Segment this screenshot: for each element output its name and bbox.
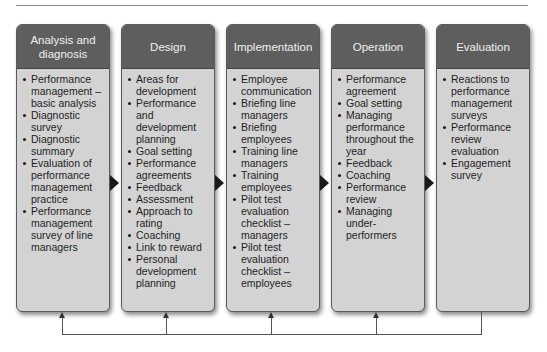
stage-title: Implementation	[227, 25, 319, 69]
list-item: Feedback	[128, 181, 211, 193]
stage-box: Analysis and diagnosisPerformance manage…	[16, 24, 110, 312]
stage-items: Performance management – basic analysisD…	[17, 69, 109, 253]
top-rule	[16, 5, 528, 6]
list-item: Briefing employees	[233, 121, 316, 145]
flow-arrow-icon	[425, 175, 434, 191]
list-item: Performance and development planning	[128, 97, 211, 145]
stage-items: Areas for developmentPerformance and dev…	[122, 69, 214, 289]
list-item: Coaching	[128, 229, 211, 241]
list-item: Link to reward	[128, 241, 211, 253]
stage-title: Operation	[332, 25, 424, 69]
list-item: Goal setting	[338, 97, 421, 109]
list-item: Diagnostic survey	[23, 109, 106, 133]
list-item: Engagement survey	[443, 157, 526, 181]
list-item: Diagnostic summary	[23, 133, 106, 157]
stage-box: DesignAreas for developmentPerformance a…	[121, 24, 215, 312]
arrow-up-icon	[59, 312, 65, 318]
stage-box: OperationPerformance agreementGoal setti…	[331, 24, 425, 312]
list-item: Performance review evaluation	[443, 121, 526, 157]
arrow-up-icon	[268, 312, 274, 318]
stage-items: Reactions to performance management surv…	[437, 69, 529, 181]
list-item: Assessment	[128, 193, 211, 205]
list-item: Performance agreement	[338, 73, 421, 97]
list-item: Reactions to performance management surv…	[443, 73, 526, 121]
list-item: Employee communication	[233, 73, 316, 97]
stage-box: EvaluationReactions to performance manag…	[436, 24, 530, 312]
list-item: Evaluation of performance management pra…	[23, 157, 106, 205]
stage-title: Design	[122, 25, 214, 69]
list-item: Feedback	[338, 157, 421, 169]
flow-arrow-icon	[320, 175, 329, 191]
list-item: Goal setting	[128, 145, 211, 157]
list-item: Coaching	[338, 169, 421, 181]
list-item: Pilot test evaluation checklist – manage…	[233, 193, 316, 241]
arrow-up-icon	[373, 312, 379, 318]
stage-box: ImplementationEmployee communicationBrie…	[226, 24, 320, 312]
list-item: Performance management survey of line ma…	[23, 205, 106, 253]
stage-title: Evaluation	[437, 25, 529, 69]
list-item: Performance review	[338, 181, 421, 205]
list-item: Training employees	[233, 169, 316, 193]
stage-items: Employee communicationBriefing line mana…	[227, 69, 319, 289]
list-item: Managing under-performers	[338, 205, 421, 241]
list-item: Managing performance throughout the year	[338, 109, 421, 157]
list-item: Performance management – basic analysis	[23, 73, 106, 109]
list-item: Personal development planning	[128, 253, 211, 289]
list-item: Performance agreements	[128, 157, 211, 181]
flow-arrow-icon	[110, 175, 119, 191]
arrow-up-icon	[163, 312, 169, 318]
list-item: Training line managers	[233, 145, 316, 169]
list-item: Areas for development	[128, 73, 211, 97]
flow-arrow-icon	[215, 175, 224, 191]
list-item: Approach to rating	[128, 205, 211, 229]
stage-title: Analysis and diagnosis	[17, 25, 109, 69]
list-item: Pilot test evaluation checklist – employ…	[233, 241, 316, 289]
list-item: Briefing line managers	[233, 97, 316, 121]
stage-items: Performance agreementGoal settingManagin…	[332, 69, 424, 241]
